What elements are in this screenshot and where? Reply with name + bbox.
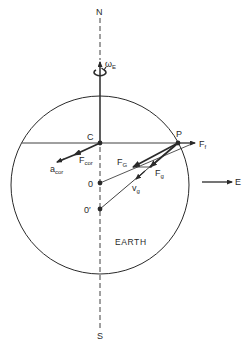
earth-rotation-force-diagram: N S ωE C P 0 0′ Ff Fcor acor FG Fg vg EA… xyxy=(0,0,251,346)
north-label: N xyxy=(96,7,103,17)
f-G-label: FG xyxy=(117,157,128,168)
o-to-ff-tip-line xyxy=(100,143,194,183)
omega-symbol: ω xyxy=(105,59,112,69)
point-o-prime xyxy=(98,207,103,212)
f-cor-label: Fcor xyxy=(79,155,93,166)
point-p xyxy=(176,141,181,146)
point-c xyxy=(98,141,103,146)
o-prime-label: 0′ xyxy=(84,205,91,215)
earth-label: EARTH xyxy=(115,237,147,247)
f-g-label: Fg xyxy=(155,168,164,179)
south-label: S xyxy=(97,331,103,341)
v-g-arrow xyxy=(136,171,145,179)
v-g-label: vg xyxy=(132,183,140,194)
omega-subscript: E xyxy=(112,64,116,70)
p-label: P xyxy=(176,129,182,139)
f-cor-vector xyxy=(74,143,100,155)
c-label: C xyxy=(87,132,94,142)
omega-label: ωE xyxy=(105,59,116,70)
east-label: E xyxy=(235,177,241,187)
f-f-label: Ff xyxy=(199,139,207,150)
a-cor-label: acor xyxy=(50,164,63,175)
point-o xyxy=(98,181,103,186)
o-label: 0 xyxy=(88,179,93,189)
